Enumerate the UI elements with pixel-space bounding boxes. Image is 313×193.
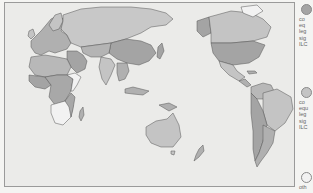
region-australia — [146, 113, 181, 147]
region-canada — [209, 11, 271, 43]
region-china — [109, 39, 156, 65]
region-india — [99, 57, 115, 85]
legend-text: oth — [299, 184, 313, 190]
region-caribbean — [247, 71, 257, 74]
legend-swatch-dark — [301, 4, 312, 15]
region-central-america — [239, 79, 251, 87]
region-russia — [61, 7, 173, 47]
region-north-africa — [29, 55, 71, 77]
region-tasmania — [171, 151, 175, 155]
region-japan — [157, 43, 164, 59]
region-alaska — [197, 17, 211, 37]
region-indonesia — [125, 87, 149, 95]
region-uk — [28, 29, 35, 39]
legend-item-light: oth — [299, 172, 313, 190]
region-madagascar — [79, 107, 84, 121]
legend-item-dark: co eq leg sig ILC — [299, 4, 313, 47]
legend-swatch-medium — [301, 87, 312, 98]
region-brazil — [263, 89, 293, 131]
legend: co eq leg sig ILC co equ leg sig ILC oth — [299, 0, 313, 193]
region-papua — [159, 103, 177, 111]
region-southeast-asia — [117, 63, 129, 81]
legend-swatch-light — [301, 172, 312, 183]
legend-item-medium: co equ leg sig ILC — [299, 87, 313, 130]
legend-text: co equ leg sig ILC — [299, 99, 313, 130]
map-svg — [5, 3, 295, 187]
legend-text: co eq leg sig ILC — [299, 16, 313, 47]
region-middle-east — [67, 51, 87, 73]
world-map — [4, 2, 295, 187]
region-new-zealand — [194, 145, 204, 161]
